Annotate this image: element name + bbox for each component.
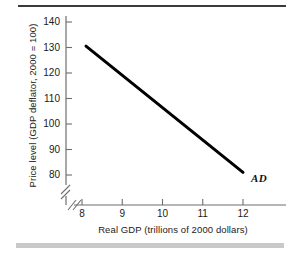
y-axis-ticks	[66, 22, 72, 175]
y-tick-label: 80	[34, 169, 60, 180]
x-tick-label: 8	[72, 208, 92, 219]
bottom-divider-bar	[16, 243, 284, 248]
y-tick-label: 100	[34, 118, 60, 129]
aggregate-demand-line	[86, 46, 243, 172]
x-axis-title: Real GDP (trillions of 2000 dollars)	[60, 224, 286, 235]
x-tick-label: 10	[153, 208, 173, 219]
y-tick-label: 130	[34, 42, 60, 53]
x-axis-ticks	[82, 199, 243, 205]
y-tick-label: 120	[34, 67, 60, 78]
x-tick-label: 12	[233, 208, 253, 219]
figure-container: Price level (GDP deflator, 2000 = 100) R…	[0, 0, 292, 254]
y-tick-label: 90	[34, 144, 60, 155]
y-tick-label: 110	[34, 93, 60, 104]
x-tick-label: 9	[112, 208, 132, 219]
ad-curve-label: AD	[251, 172, 267, 184]
y-tick-label: 140	[34, 16, 60, 27]
x-tick-label: 11	[193, 208, 213, 219]
